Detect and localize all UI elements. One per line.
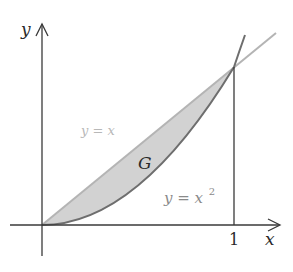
- area-between-curves-diagram: 1 x y y = x G y = x 2: [0, 0, 293, 272]
- region-label-g: G: [138, 153, 152, 173]
- label-y-equals-x-squared: y = x 2: [163, 186, 215, 207]
- y-axis-label: y: [20, 19, 31, 39]
- label-y-equals-x-squared-exponent: 2: [209, 186, 215, 197]
- label-y-equals-x-squared-base: y = x: [163, 189, 204, 207]
- x-axis-label: x: [265, 229, 275, 249]
- label-y-equals-x: y = x: [80, 123, 116, 138]
- line-y-equals-x: [42, 33, 276, 225]
- x-tick-label-1: 1: [229, 230, 239, 249]
